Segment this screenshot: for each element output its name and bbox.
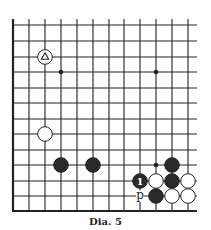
white-stone: [165, 189, 180, 204]
black-stone: [165, 174, 180, 189]
point-label: p: [136, 188, 144, 202]
star-point: [59, 70, 64, 75]
move-number: 1: [137, 176, 144, 187]
white-stone: [181, 189, 196, 204]
point-labels: p: [136, 188, 144, 202]
black-stone: [54, 158, 69, 173]
go-board-diagram: 1 p: [0, 0, 211, 215]
black-stone: 1: [133, 174, 148, 189]
white-stone: [181, 174, 196, 189]
black-stone: [165, 158, 180, 173]
black-stone: [149, 189, 164, 204]
star-point: [154, 70, 159, 75]
white-stone: [38, 50, 53, 65]
white-stone: [149, 174, 164, 189]
diagram-caption: Dia. 5: [0, 216, 211, 227]
white-stone: [38, 127, 53, 142]
star-point: [154, 163, 159, 168]
black-stone: [86, 158, 101, 173]
